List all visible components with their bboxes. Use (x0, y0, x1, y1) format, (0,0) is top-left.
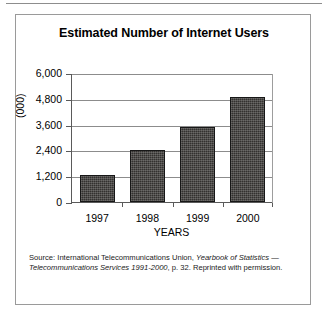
y-axis-tick-label: 3,600 (10, 119, 62, 131)
x-axis-tick-label: 1998 (120, 212, 174, 224)
x-axis-tick-label: 1999 (171, 212, 225, 224)
y-axis-tick (66, 126, 72, 127)
source-note-segment: Yearbook of Statistics (196, 253, 269, 262)
y-axis-tick-label: 0 (10, 196, 62, 208)
y-axis-tick (66, 100, 72, 101)
y-axis-tick (66, 74, 72, 75)
gridline (72, 74, 273, 75)
plot-area: 01,2002,4003,6004,8006,00019971998199920… (71, 74, 272, 203)
chart-title: Estimated Number of Internet Users (0, 26, 328, 40)
x-axis-tick (173, 202, 174, 207)
source-note-segment: Source: International Telecommunications… (29, 253, 196, 262)
y-axis-tick-label: 6,000 (10, 67, 62, 79)
y-axis-tick-label: 1,200 (10, 170, 62, 182)
x-axis-tick-label: 2000 (221, 212, 275, 224)
chart-figure: Estimated Number of Internet Users (000)… (0, 0, 328, 321)
bar-1999 (180, 127, 215, 202)
source-note-segment: , p. 32. Reprinted with permission. (168, 263, 283, 272)
top-divider-rule (6, 3, 322, 4)
y-axis-tick-label: 2,400 (10, 144, 62, 156)
y-axis-tick (66, 203, 72, 204)
x-axis-tick (223, 202, 224, 207)
y-axis-tick (66, 151, 72, 152)
x-axis-tick (122, 202, 123, 207)
x-axis-tick-label: 1997 (70, 212, 124, 224)
x-axis-title: YEARS (71, 226, 272, 238)
source-note: Source: International Telecommunications… (29, 253, 295, 273)
y-axis-tick-label: 4,800 (10, 93, 62, 105)
bar-1997 (80, 175, 115, 202)
bar-2000 (230, 97, 265, 202)
y-axis-tick (66, 177, 72, 178)
plot-right-edge (272, 74, 273, 203)
bar-1998 (130, 150, 165, 202)
